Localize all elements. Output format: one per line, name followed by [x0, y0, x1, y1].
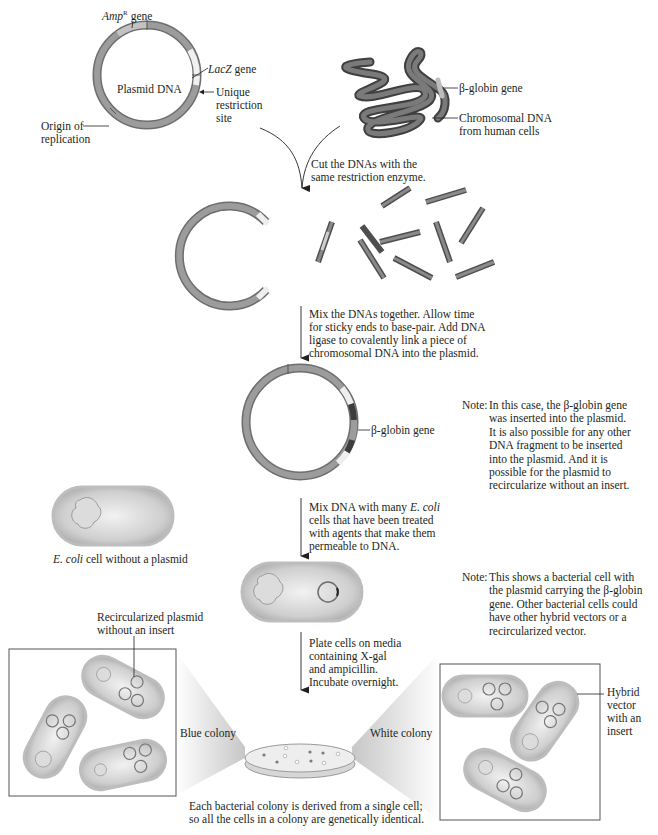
linearized-plasmid-icon	[179, 206, 268, 306]
ecoli-no-plasmid-caption: E. coli cell without a plasmid	[53, 553, 188, 566]
amp-gene-label: AmpR gene	[102, 7, 152, 23]
plasmid-ring-icon	[97, 20, 200, 125]
hybrid-vector-label: Hybrid vector with an insert	[607, 686, 641, 738]
white-colony-label: White colony	[370, 727, 432, 740]
ecoli-cell-icon	[53, 487, 173, 545]
hybrid-plasmid-icon	[246, 364, 354, 476]
plasmid-dna-label: Plasmid DNA	[117, 83, 182, 96]
transformed-ecoli-icon	[242, 563, 362, 621]
chromosomal-dna-label: Chromosomal DNA from human cells	[459, 112, 552, 138]
step-cut-text: Cut the DNAs with the same restriction e…	[311, 158, 426, 184]
colony-caption: Each bacterial colony is derived from a …	[189, 800, 424, 826]
origin-of-replication-label: Origin of replication	[41, 120, 90, 146]
recircularized-plasmid-label: Recircularized plasmid without an insert	[97, 611, 203, 637]
note-insert: Note: In this case, the β-globin gene wa…	[462, 399, 658, 499]
note-transformed-cell: Note: This shows a bacterial cell with t…	[462, 571, 658, 651]
dna-fragments-icon	[318, 188, 494, 278]
chromosome-icon	[346, 52, 445, 134]
blue-colony-label: Blue colony	[180, 727, 236, 740]
hybrid-beta-globin-label: β-globin gene	[371, 424, 435, 437]
step-plate-text: Plate cells on media containing X-gal an…	[309, 637, 401, 689]
restriction-site-label: Unique restriction site	[216, 86, 263, 125]
step-mix-text: Mix the DNAs together. Allow time for st…	[309, 308, 486, 360]
beta-globin-gene-label: β-globin gene	[459, 82, 523, 95]
petri-dish-icon	[245, 744, 355, 778]
lacz-gene-label: LacZ gene	[208, 63, 256, 76]
step-transform-text: Mix DNA with many E. coli cells that hav…	[309, 501, 440, 553]
